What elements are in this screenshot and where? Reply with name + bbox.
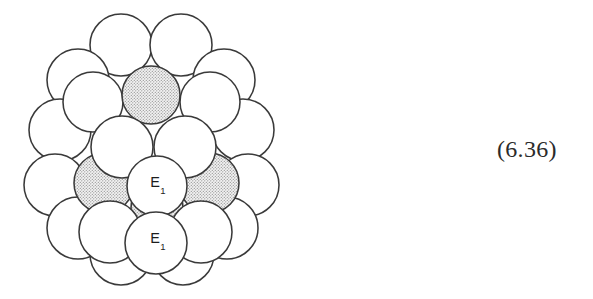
label-e1-middle-subscript: 1 <box>160 185 165 196</box>
label-e1-front-subscript: 1 <box>160 241 165 252</box>
sphere-packing-diagram: E1E1 <box>0 0 320 299</box>
equation-number: (6.36) <box>497 136 557 163</box>
middle-sphere-3-shaded <box>122 66 180 124</box>
figure-container: E1E1 (6.36) <box>0 0 593 299</box>
